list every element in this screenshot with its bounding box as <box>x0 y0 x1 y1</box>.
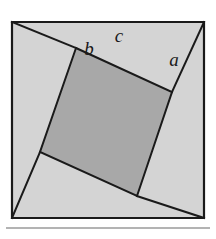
pythagorean-diagram: b c a <box>0 0 216 239</box>
label-c: c <box>115 25 124 46</box>
label-b: b <box>84 38 94 59</box>
label-a: a <box>169 49 179 70</box>
figure-container: b c a <box>0 0 216 239</box>
